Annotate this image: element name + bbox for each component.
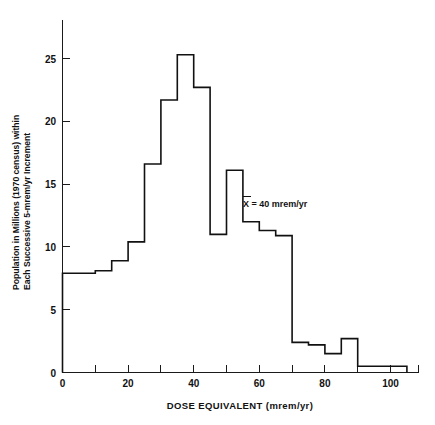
y-tick-label-15: 15 — [45, 179, 57, 190]
mean-annotation: X = 40 mrem/yr — [243, 197, 308, 210]
y-axis-title: Population in Millions (1970 census) wit… — [11, 115, 32, 290]
x-tick-label-group: 0 20 40 60 80 100 — [60, 378, 400, 389]
y-tick-label-20: 20 — [45, 116, 57, 127]
y-tick-label-group: 0 5 10 15 20 25 — [45, 54, 57, 379]
y-axis-title-line2: Each Successive 5-mrem/yr Increment — [22, 133, 32, 290]
histogram-chart: 0 5 10 15 20 25 0 20 40 60 — [0, 0, 435, 425]
y-tick-label-10: 10 — [45, 242, 57, 253]
y-axis-title-line1: Population in Millions (1970 census) wit… — [11, 115, 21, 290]
y-tick-group — [63, 59, 71, 373]
x-tick-label-80: 80 — [319, 378, 331, 389]
y-tick-label-25: 25 — [45, 54, 57, 65]
x-tick-label-100: 100 — [382, 378, 399, 389]
x-tick-label-20: 20 — [123, 378, 135, 389]
y-tick-label-0: 0 — [50, 368, 56, 379]
histogram-step-outline — [63, 55, 407, 373]
x-tick-label-60: 60 — [254, 378, 266, 389]
x-tick-label-40: 40 — [188, 378, 200, 389]
mean-annotation-label: X = 40 mrem/yr — [243, 199, 308, 209]
y-tick-label-5: 5 — [50, 305, 56, 316]
x-tick-label-0: 0 — [60, 378, 66, 389]
figure-container: 0 5 10 15 20 25 0 20 40 60 — [0, 0, 435, 425]
x-axis-title: DOSE EQUIVALENT (mrem/yr) — [167, 400, 314, 411]
axis-group — [63, 20, 420, 373]
